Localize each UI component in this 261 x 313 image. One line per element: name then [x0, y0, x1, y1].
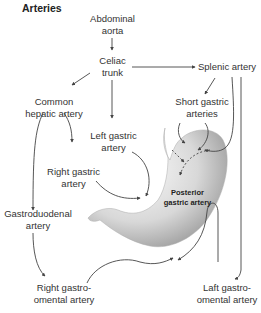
label-posterior-gastric-artery: Posterior gastric artery: [160, 188, 215, 207]
label-short-gastric-arteries: Short gastric arteries: [172, 96, 232, 120]
label-common-hepatic-artery: Common hepatic artery: [22, 96, 86, 120]
label-splenic-artery: Splenic artery: [198, 61, 256, 73]
label-right-gastric-artery: Right gastric artery: [46, 166, 101, 190]
label-left-gastric-artery: Left gastric artery: [86, 130, 141, 154]
label-celiac-trunk: Celiac trunk: [90, 55, 135, 79]
label-left-gastroomental-artery: Laft gastro- omental artery: [193, 282, 261, 306]
artery-diagram: [0, 0, 261, 313]
label-right-gastroomental-artery: Right gastro- omental artery: [30, 282, 98, 306]
label-gastroduodenal-artery: Gastroduodenal artery: [3, 208, 73, 232]
label-abdominal-aorta: Abdominal aorta: [85, 13, 140, 37]
